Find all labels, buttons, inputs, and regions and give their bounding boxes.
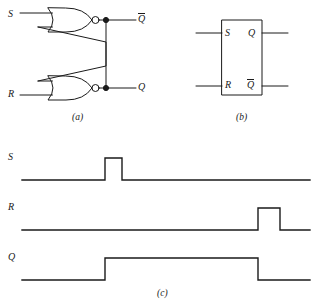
output-label-qbar-text: Q — [138, 13, 145, 24]
output-label-qbar: Q — [138, 13, 145, 24]
waveform-s — [22, 158, 310, 180]
input-label-r: R — [8, 89, 14, 99]
figure-root: S R Q Q S R Q Q S R Q (a) (b) (c) — [0, 0, 317, 306]
signal-label-r: R — [8, 202, 14, 212]
pin-label-q: Q — [248, 28, 255, 38]
pin-label-r: R — [225, 80, 231, 90]
nor-gate-top-bubble — [92, 17, 99, 24]
nor-gate-bottom-bubble — [92, 85, 99, 92]
caption-a: (a) — [72, 113, 83, 123]
caption-b: (b) — [236, 113, 247, 123]
signal-label-s: S — [8, 152, 13, 162]
figure-vector-canvas — [0, 0, 317, 306]
nor-gate-top-body — [48, 8, 92, 32]
pin-label-qbar-text: Q — [247, 79, 254, 90]
caption-c: (c) — [157, 289, 168, 299]
timing-c-group — [22, 158, 310, 280]
symbol-b-group — [196, 20, 288, 95]
waveform-q — [22, 258, 310, 280]
circuit-a-group — [20, 8, 136, 100]
nor-gate-bottom-body — [48, 76, 92, 100]
pin-label-s: S — [225, 28, 230, 38]
pin-label-qbar: Q — [247, 79, 254, 90]
input-label-s: S — [8, 9, 13, 19]
signal-label-q: Q — [8, 252, 15, 262]
waveform-r — [22, 208, 310, 230]
output-label-q: Q — [138, 82, 145, 92]
